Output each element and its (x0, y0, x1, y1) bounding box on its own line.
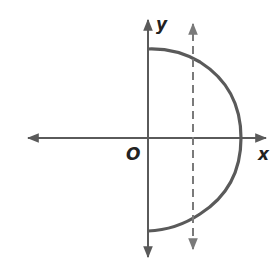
x-axis-label: x (257, 144, 270, 164)
origin-label: O (126, 144, 140, 164)
semicircle-graph: y x O (0, 0, 277, 269)
y-axis-label: y (156, 14, 168, 34)
semicircle-curve (148, 49, 241, 231)
